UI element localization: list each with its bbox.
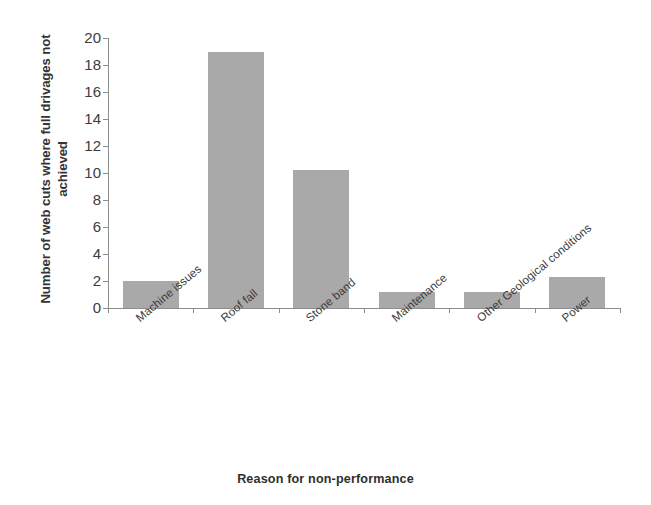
y-tick-label: 18 <box>71 56 101 73</box>
y-tick-label: 12 <box>71 137 101 154</box>
y-axis-title: Number of web cuts where full drivages n… <box>37 19 71 319</box>
x-tick-mark <box>279 308 280 313</box>
y-tick-label: 6 <box>71 218 101 235</box>
y-tick-mark <box>103 119 108 120</box>
y-tick-label: 8 <box>71 191 101 208</box>
x-axis-title: Reason for non-performance <box>0 472 651 486</box>
bar-chart-figure: Number of web cuts where full drivages n… <box>0 0 651 505</box>
x-tick-mark <box>449 308 450 313</box>
y-tick-label: 4 <box>71 245 101 262</box>
y-axis-line <box>108 38 109 308</box>
y-tick-mark <box>103 38 108 39</box>
plot-area: 20181614121086420 Machine issuesRoof fal… <box>108 38 620 308</box>
x-tick-mark <box>108 308 109 313</box>
bar <box>208 52 264 309</box>
y-tick-label: 14 <box>71 110 101 127</box>
y-tick-mark <box>103 227 108 228</box>
y-tick-mark <box>103 173 108 174</box>
y-tick-mark <box>103 200 108 201</box>
y-tick-mark <box>103 65 108 66</box>
y-tick-label: 10 <box>71 164 101 181</box>
x-tick-mark <box>193 308 194 313</box>
y-tick-mark <box>103 281 108 282</box>
y-tick-mark <box>103 146 108 147</box>
y-tick-label: 16 <box>71 83 101 100</box>
x-tick-mark <box>364 308 365 313</box>
x-tick-mark <box>620 308 621 313</box>
y-tick-mark <box>103 92 108 93</box>
y-tick-mark <box>103 254 108 255</box>
y-tick-label: 0 <box>71 299 101 316</box>
y-tick-label: 20 <box>71 29 101 46</box>
y-tick-label: 2 <box>71 272 101 289</box>
x-tick-mark <box>535 308 536 313</box>
